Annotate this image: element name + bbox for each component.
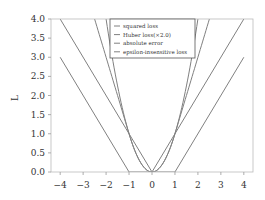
loss-functions-chart: −4−3−2−101234 0.00.51.01.52.02.53.03.54.… [0, 0, 265, 200]
legend-label: squared loss [123, 23, 158, 30]
y-tick-label: 1.5 [31, 110, 46, 120]
legend-label: Huber loss(×2.0) [123, 32, 171, 38]
y-tick-label: 4.0 [31, 14, 46, 24]
x-tick-label: 3 [218, 180, 224, 190]
x-tick-label: 4 [241, 180, 247, 190]
y-tick-label: 3.5 [31, 33, 46, 43]
legend-label: epsilon-insensitive loss [123, 49, 187, 56]
x-tick-label: −3 [76, 180, 90, 190]
x-tick-label: −1 [122, 180, 135, 190]
x-tick-label: −2 [99, 180, 112, 190]
x-tick-label: −4 [54, 180, 68, 190]
y-tick-label: 2.0 [31, 91, 46, 101]
y-tick-label: 1.0 [31, 129, 46, 139]
legend: squared lossHuber loss(×2.0)absolute err… [110, 19, 195, 58]
legend-label: absolute error [123, 40, 163, 46]
x-tick-label: 1 [172, 180, 178, 190]
y-tick-label: 3.0 [31, 52, 46, 62]
x-tick-label: 0 [149, 180, 155, 190]
series-line-epsilon-insensitive-loss [60, 57, 244, 172]
x-tick-label: 2 [195, 180, 201, 190]
y-tick-label: 0.0 [31, 167, 46, 177]
y-axis-label: L [10, 95, 20, 101]
y-tick-label: 2.5 [31, 71, 46, 81]
y-tick-label: 0.5 [31, 148, 46, 158]
